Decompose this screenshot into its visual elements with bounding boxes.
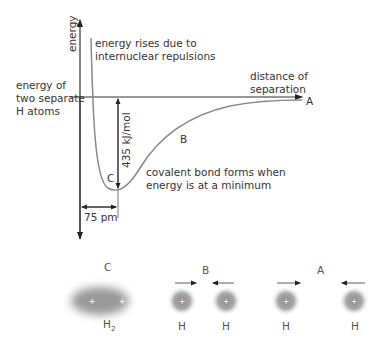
atoms-B-label: B [202, 264, 209, 276]
h2-molecule-C: + + [71, 287, 129, 315]
separate-atoms-annotation: energy of two separate H atoms [16, 79, 85, 118]
h-atoms-B: + + [167, 283, 241, 316]
svg-text:+: + [119, 297, 126, 306]
svg-text:+: + [223, 297, 230, 306]
minimum-annotation: covalent bond forms when energy is at a … [146, 166, 286, 192]
point-A-label: A [306, 95, 313, 108]
point-C-label: C [107, 172, 114, 185]
bond-length-label: 75 pm [84, 211, 118, 224]
atom-A-left-label: H [282, 320, 290, 332]
repulsion-annotation: energy rises due to internuclear repulsi… [95, 37, 216, 63]
y-axis-label: energy [66, 15, 78, 52]
atom-B-left-label: H [178, 320, 186, 332]
svg-text:+: + [283, 297, 290, 306]
svg-text:+: + [351, 297, 358, 306]
atoms-A-label: A [317, 264, 324, 276]
atoms-C-label: C [104, 261, 111, 273]
bond-energy-label: 435 kJ/mol [120, 112, 132, 168]
h2-label: H2 [103, 318, 115, 333]
atom-B-right-label: H [222, 320, 230, 332]
svg-text:+: + [89, 297, 96, 306]
h-atoms-A: + + [271, 283, 369, 316]
svg-text:+: + [179, 297, 186, 306]
atom-A-right-label: H [351, 320, 359, 332]
point-B-label: B [180, 133, 187, 146]
x-axis-label: distance of separation [250, 70, 308, 96]
